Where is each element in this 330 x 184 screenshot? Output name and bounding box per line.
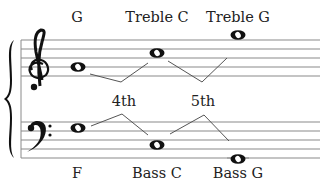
- label-bass-f: F: [72, 165, 82, 181]
- label-treble-high-g: Treble G: [206, 9, 270, 25]
- label-bass-c: Bass C: [132, 165, 182, 181]
- bass-staff: [21, 122, 320, 158]
- grand-staff-diagram: G Treble C Treble G: [0, 0, 330, 184]
- note-bass-f: [71, 123, 86, 133]
- label-interval-5th: 5th: [191, 93, 215, 109]
- label-treble-g: G: [71, 9, 83, 25]
- note-treble-c: [150, 48, 165, 58]
- bass-interval-connectors: [91, 114, 229, 141]
- note-treble-high-g: [231, 30, 246, 40]
- treble-interval-connectors: [90, 58, 227, 82]
- label-bass-g: Bass G: [213, 165, 263, 181]
- label-treble-c: Treble C: [125, 9, 188, 25]
- brace-icon: [4, 40, 14, 158]
- treble-clef-icon: [30, 30, 48, 90]
- note-treble-g: [71, 62, 86, 72]
- bass-clef-icon: [27, 121, 52, 152]
- note-bass-g: [227, 154, 249, 164]
- note-bass-c: [150, 140, 165, 150]
- treble-staff: [21, 40, 320, 76]
- label-interval-4th: 4th: [112, 93, 136, 109]
